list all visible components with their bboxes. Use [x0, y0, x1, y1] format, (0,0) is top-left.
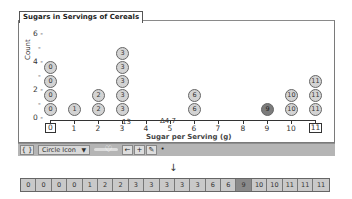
data-point[interactable]: 3 [116, 61, 129, 74]
data-point[interactable]: 3 [116, 75, 129, 88]
strip-cell[interactable]: 0 [21, 179, 36, 191]
mean-marker: Δ4.7 [160, 117, 176, 125]
icon-select-value: Circle Icon [42, 146, 76, 154]
data-point[interactable]: 0 [44, 103, 57, 116]
format-button[interactable]: { } [20, 145, 34, 155]
strip-cell[interactable]: 6 [206, 179, 221, 191]
plot-toolbar: { } Circle Icon ▼ ♡ ← + ✎ • [18, 143, 335, 156]
y-minor-tick: - [38, 99, 41, 108]
x-axis-line [50, 120, 316, 121]
strip-cell[interactable]: 3 [160, 179, 175, 191]
x-axis-max-handle[interactable]: 11 [309, 123, 322, 133]
more-button[interactable]: • [158, 145, 167, 155]
data-point[interactable]: 0 [44, 75, 57, 88]
strip-cell[interactable]: 0 [67, 179, 82, 191]
data-point[interactable]: 10 [285, 89, 298, 102]
data-point[interactable]: 1 [68, 103, 81, 116]
x-tick-label: 5 [162, 124, 178, 133]
add-button[interactable]: + [134, 145, 145, 155]
strip-cell[interactable]: 11 [283, 179, 298, 191]
strip-cell[interactable]: 10 [267, 179, 282, 191]
data-point[interactable]: 2 [92, 103, 105, 116]
y-tick-4: 4 - [33, 57, 43, 66]
data-point[interactable]: 0 [44, 89, 57, 102]
x-tick-label: 4 [138, 124, 154, 133]
strip-cell[interactable]: 3 [144, 179, 159, 191]
strip-cell-selected[interactable]: 9 [236, 179, 251, 191]
x-tick-label: 8 [235, 124, 251, 133]
x-tick-label: 1 [66, 124, 82, 133]
y-tick-2: 2 - [33, 85, 43, 94]
y-tick-0: 0 - [33, 113, 43, 122]
strip-cell[interactable]: 11 [298, 179, 313, 191]
data-point[interactable]: 3 [116, 89, 129, 102]
strip-cell[interactable]: 3 [190, 179, 205, 191]
strip-cell[interactable]: 2 [113, 179, 128, 191]
median-marker: 13 [122, 118, 131, 126]
strip-cell[interactable]: 0 [52, 179, 67, 191]
dot-plot: Count 0 - 2 - 4 - 6 - - - - 0 1 2 3 4 5 … [0, 0, 352, 143]
data-point-selected[interactable]: 9 [261, 103, 274, 116]
strip-cell[interactable]: 1 [83, 179, 98, 191]
icon-type-select[interactable]: Circle Icon ▼ [38, 145, 90, 155]
data-point[interactable]: 6 [188, 103, 201, 116]
strip-cell[interactable]: 6 [221, 179, 236, 191]
x-tick-label: 7 [210, 124, 226, 133]
data-point[interactable]: 11 [309, 75, 322, 88]
pencil-icon[interactable]: ✎ [146, 145, 157, 155]
strip-cell[interactable]: 11 [313, 179, 328, 191]
strip-cell[interactable]: 3 [129, 179, 144, 191]
data-point[interactable]: 10 [285, 103, 298, 116]
x-tick-label: 9 [259, 124, 275, 133]
x-tick-label: 6 [186, 124, 202, 133]
data-point[interactable]: 11 [309, 89, 322, 102]
data-point[interactable]: 0 [44, 61, 57, 74]
strip-cell[interactable]: 3 [175, 179, 190, 191]
x-axis-min-handle[interactable]: 0 [45, 123, 56, 133]
left-arrow-button[interactable]: ← [122, 145, 133, 155]
slider-thumb-icon[interactable]: ♡ [104, 145, 113, 154]
strip-cell[interactable]: 2 [98, 179, 113, 191]
data-point[interactable]: 2 [92, 89, 105, 102]
strip-cell[interactable]: 10 [252, 179, 267, 191]
y-minor-tick: - [38, 43, 41, 52]
data-point[interactable]: 3 [116, 47, 129, 60]
data-point[interactable]: 6 [188, 89, 201, 102]
down-arrow-icon: ↓ [169, 163, 177, 173]
data-point[interactable]: 11 [309, 103, 322, 116]
x-tick-label: 10 [283, 124, 299, 133]
y-axis-label: Count [24, 39, 32, 60]
chevron-down-icon: ▼ [81, 146, 86, 154]
y-tick-6: 6 - [33, 29, 43, 38]
x-tick-label: 2 [90, 124, 106, 133]
y-minor-tick: - [38, 71, 41, 80]
x-axis-title: Sugar per Serving (g) [146, 133, 231, 141]
data-strip: 0 0 0 0 1 2 2 3 3 3 3 3 6 6 9 10 10 11 1… [20, 178, 330, 192]
data-point[interactable]: 3 [116, 103, 129, 116]
strip-cell[interactable]: 0 [36, 179, 51, 191]
